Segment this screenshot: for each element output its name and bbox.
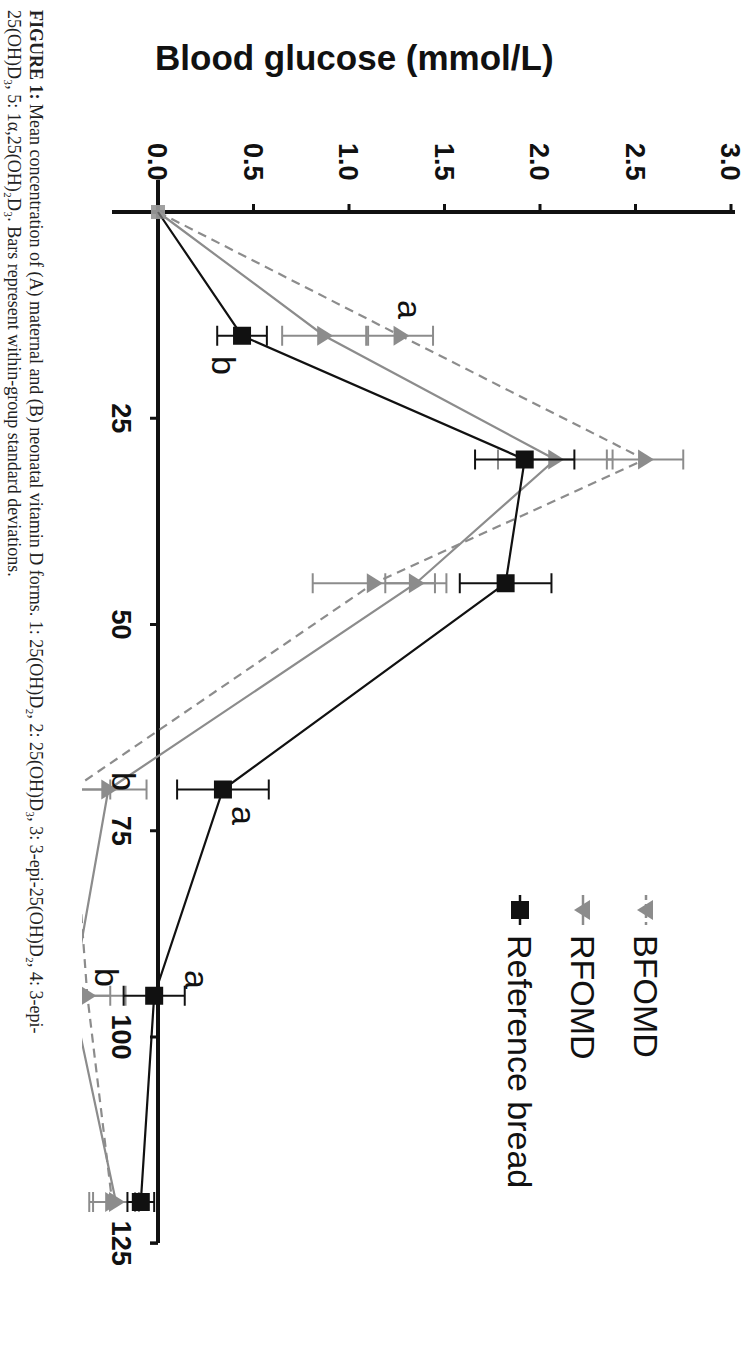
triangle-marker: [394, 326, 410, 346]
triangle-marker: [317, 326, 333, 346]
caption-line1: Mean concentration of (A) maternal and (…: [25, 104, 46, 1034]
figure-caption: FIGURE 1: Mean concentration of (A) mate…: [25, 10, 46, 1034]
square-marker: [233, 327, 251, 345]
x-tick-label: 25: [106, 403, 136, 433]
triangle-marker: [109, 1192, 125, 1212]
significance-letter: b: [88, 968, 126, 987]
y-tick-label: 0.5: [238, 143, 268, 181]
legend-item-rfomd: RFOMD: [564, 895, 602, 1060]
x-tick-label: 125: [106, 1221, 136, 1266]
significance-letter: b: [105, 772, 143, 791]
y-tick-label: 1.0: [333, 143, 363, 181]
significance-letter: b: [205, 356, 243, 375]
legend-item-reference-bread: Reference bread: [501, 895, 539, 1188]
significance-letter: a: [178, 970, 216, 989]
triangle-marker: [65, 986, 81, 1006]
figure-caption-2: 25(OH)D₃, 5: 1α,25(OH)₂D₃. Bars represen…: [3, 10, 24, 577]
triangle-marker: [65, 780, 81, 800]
square-marker: [214, 781, 232, 799]
y-tick-label: 0.0: [142, 143, 172, 181]
y-axis-title: Blood glucose (mmol/L): [155, 38, 554, 77]
series-layer: [34, 205, 683, 1212]
caption-line2: 25(OH)D₃, 5: 1α,25(OH)₂D₃. Bars represen…: [3, 10, 24, 577]
significance-letter: a: [391, 300, 429, 319]
legend-label: RFOMD: [564, 935, 602, 1060]
x-tick-label: 100: [106, 1014, 136, 1059]
legend-label: BFOMD: [627, 935, 665, 1058]
y-tick-label: 2.5: [620, 143, 650, 181]
square-marker: [497, 574, 515, 592]
caption-prefix: FIGURE 1:: [26, 10, 46, 100]
y-tick-label: 3.0: [715, 143, 745, 181]
square-marker: [516, 451, 534, 469]
triangle-marker: [367, 573, 383, 593]
square-marker: [132, 1193, 150, 1211]
time-axis: 255075100125: [106, 180, 158, 1266]
svg-text:FIGURE 1: Mean concentra: FIGURE 1: Mean concentration of (A) mate…: [25, 10, 46, 1034]
y-tick-label: 1.5: [429, 143, 459, 181]
glucose-axis: 0.00.51.01.52.02.53.0: [112, 143, 745, 212]
significance-letter: a: [225, 806, 263, 825]
glucose-chart: Blood glucose (mmol/L) 0.00.51.01.52.02.…: [0, 0, 750, 1356]
significance-letters: abbaba: [88, 300, 429, 989]
legend: BFOMDRFOMDReference bread: [501, 895, 665, 1188]
x-tick-label: 75: [106, 816, 136, 846]
square-icon: [511, 901, 529, 919]
series-bfomd: [34, 205, 683, 1212]
triangle-marker: [638, 450, 654, 470]
legend-item-bfomd: BFOMD: [627, 895, 665, 1058]
y-tick-label: 2.0: [524, 143, 554, 181]
x-tick-label: 50: [106, 609, 136, 639]
legend-label: Reference bread: [501, 935, 539, 1188]
square-marker: [145, 987, 163, 1005]
